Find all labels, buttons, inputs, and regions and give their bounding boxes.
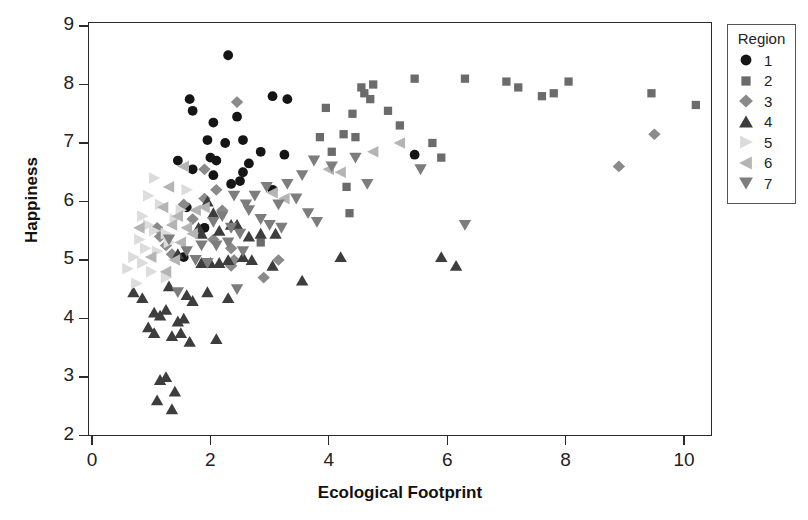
scatter-plot-figure: Happiness Ecological Footprint Region 12… <box>0 0 808 520</box>
legend-entry-4[interactable]: 4 <box>728 112 795 133</box>
y-axis-tick <box>79 318 88 319</box>
x-axis-tick-label: 10 <box>664 449 704 471</box>
y-axis-tick <box>79 259 88 260</box>
x-axis-tick-label: 6 <box>427 449 467 471</box>
y-axis-tick-label: 5 <box>34 247 74 269</box>
y-axis-tick <box>79 201 88 202</box>
legend-entry-label: 2 <box>764 72 772 89</box>
legend-entry-label: 1 <box>764 52 772 69</box>
y-axis-tick-label: 6 <box>34 189 74 211</box>
y-axis-tick <box>79 376 88 377</box>
x-axis-tick <box>565 436 566 445</box>
x-axis-title: Ecological Footprint <box>88 483 712 503</box>
diamond-icon <box>735 91 757 111</box>
square-icon <box>735 71 757 91</box>
legend-entries: 1234567 <box>728 50 795 194</box>
x-axis-tick-label: 4 <box>309 449 349 471</box>
legend-entry-label: 7 <box>764 175 772 192</box>
y-axis-tick <box>79 435 88 436</box>
y-axis-tick-label: 3 <box>34 364 74 386</box>
legend-title: Region <box>728 30 795 47</box>
legend-entry-label: 5 <box>764 134 772 151</box>
x-axis-tick-label: 2 <box>190 449 230 471</box>
legend-entry-label: 6 <box>764 154 772 171</box>
y-axis-tick <box>79 84 88 85</box>
legend-entry-label: 3 <box>764 93 772 110</box>
triangle-left-icon <box>735 153 757 173</box>
y-axis-tick-label: 7 <box>34 130 74 152</box>
y-axis-tick-label: 4 <box>34 306 74 328</box>
legend-entry-7[interactable]: 7 <box>728 173 795 194</box>
x-axis-tick <box>210 436 211 445</box>
legend-entry-label: 4 <box>764 113 772 130</box>
triangle-down-icon <box>735 173 757 193</box>
x-axis-tick <box>447 436 448 445</box>
legend-entry-5[interactable]: 5 <box>728 132 795 153</box>
legend-entry-2[interactable]: 2 <box>728 71 795 92</box>
triangle-right-icon <box>735 132 757 152</box>
y-axis-tick <box>79 142 88 143</box>
x-axis-tick <box>328 436 329 445</box>
y-axis-tick <box>79 25 88 26</box>
legend-entry-1[interactable]: 1 <box>728 50 795 71</box>
x-axis-tick-label: 0 <box>72 449 112 471</box>
legend-entry-3[interactable]: 3 <box>728 91 795 112</box>
y-axis-tick-label: 9 <box>34 13 74 35</box>
x-axis-tick-label: 8 <box>546 449 586 471</box>
x-axis-tick <box>683 436 684 445</box>
legend-entry-6[interactable]: 6 <box>728 153 795 174</box>
y-axis-tick-label: 2 <box>34 423 74 445</box>
plot-area <box>88 22 712 436</box>
legend: Region 1234567 <box>727 24 796 204</box>
circle-icon <box>735 50 757 70</box>
x-axis-tick <box>91 436 92 445</box>
y-axis-tick-label: 8 <box>34 72 74 94</box>
triangle-up-icon <box>735 112 757 132</box>
